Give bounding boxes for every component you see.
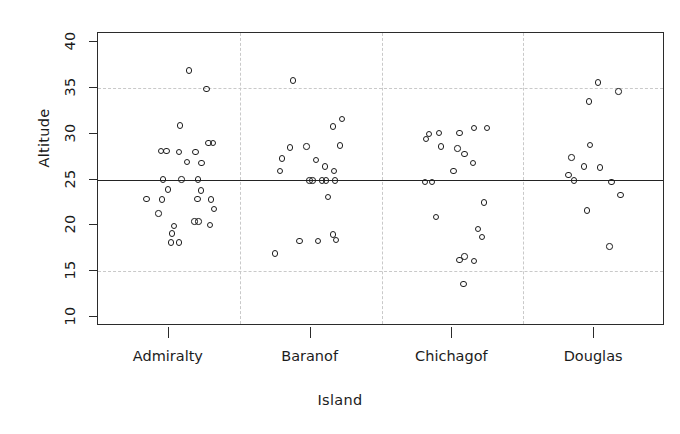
data-point [192, 149, 198, 155]
data-point [176, 239, 182, 245]
data-point [178, 176, 184, 182]
x-axis-title: Island [0, 392, 680, 408]
group-separator-3 [523, 33, 524, 324]
y-tick-label: 15 [62, 261, 78, 280]
y-tick-15 [89, 270, 97, 271]
data-point [325, 194, 331, 200]
y-tick-40 [89, 41, 97, 42]
y-tick-label-wrap-30: 30 [56, 117, 84, 149]
data-point [568, 154, 574, 160]
data-point [436, 130, 442, 136]
data-point [460, 281, 466, 287]
data-point [168, 239, 174, 245]
data-point [323, 177, 329, 183]
data-point [272, 250, 278, 256]
data-point [484, 125, 490, 131]
data-point [595, 79, 601, 85]
data-point [159, 196, 165, 202]
group-separator-2 [382, 33, 383, 324]
x-tick-label-admiralty: Admiralty [98, 348, 238, 364]
data-point [337, 142, 343, 148]
y-tick-label: 40 [62, 32, 78, 51]
group-separator-1 [240, 33, 241, 324]
data-point [277, 168, 283, 174]
data-point [471, 258, 477, 264]
scatter-chart: 10152025303540 AdmiraltyBaranofChichagof… [0, 0, 680, 434]
data-point [339, 116, 345, 122]
x-tick-label-baranof: Baranof [240, 348, 380, 364]
y-tick-label-wrap-10: 10 [56, 300, 84, 332]
data-point [461, 253, 467, 259]
data-point [143, 196, 149, 202]
gridline-dashed-35 [98, 88, 663, 89]
data-point [456, 130, 462, 136]
data-point [194, 196, 200, 202]
data-point [309, 177, 315, 183]
data-point [198, 160, 204, 166]
data-point [333, 237, 339, 243]
data-point [332, 177, 338, 183]
data-point [195, 176, 201, 182]
data-point [470, 160, 476, 166]
x-tick-chichagof [451, 327, 452, 338]
x-tick-label-douglas: Douglas [523, 348, 663, 364]
x-tick-baranof [310, 327, 311, 338]
data-point [163, 148, 169, 154]
y-tick-10 [89, 316, 97, 317]
data-point [597, 164, 603, 170]
data-point [176, 149, 182, 155]
data-point [584, 207, 590, 213]
data-point [331, 168, 337, 174]
data-point [207, 222, 213, 228]
data-point [475, 226, 481, 232]
data-point [211, 206, 217, 212]
data-point [198, 187, 204, 193]
data-point [587, 142, 593, 148]
data-point [165, 186, 171, 192]
data-point [330, 123, 336, 129]
y-tick-25 [89, 179, 97, 180]
data-point [279, 155, 285, 161]
data-point [169, 230, 175, 236]
data-point [208, 196, 214, 202]
data-point [290, 77, 296, 83]
x-tick-admiralty [168, 327, 169, 338]
y-tick-label-wrap-35: 35 [56, 71, 84, 103]
data-point [617, 192, 623, 198]
y-tick-label: 10 [62, 306, 78, 325]
data-point [315, 238, 321, 244]
data-point [155, 210, 161, 216]
data-point [461, 151, 467, 157]
data-point [160, 176, 166, 182]
data-point [608, 179, 614, 185]
gridline-dashed-15 [98, 271, 663, 272]
y-tick-30 [89, 133, 97, 134]
data-point [186, 67, 192, 73]
data-point [203, 86, 209, 92]
data-point [586, 98, 592, 104]
data-point [450, 168, 456, 174]
y-tick-label-wrap-40: 40 [56, 25, 84, 57]
data-point [322, 163, 328, 169]
x-tick-label-chichagof: Chichagof [381, 348, 521, 364]
data-point [454, 145, 460, 151]
data-point [303, 143, 309, 149]
data-point [210, 140, 216, 146]
data-point [177, 122, 183, 128]
y-tick-label: 25 [62, 169, 78, 188]
y-tick-label: 20 [62, 215, 78, 234]
y-axis-title: Altitude [14, 128, 48, 248]
y-tick-label-wrap-15: 15 [56, 254, 84, 286]
data-point [433, 214, 439, 220]
data-point [313, 157, 319, 163]
data-point [606, 243, 612, 249]
y-tick-label-wrap-25: 25 [56, 163, 84, 195]
data-point [481, 199, 487, 205]
data-point [171, 223, 177, 229]
data-point [471, 125, 477, 131]
y-tick-label: 35 [62, 77, 78, 96]
data-point [423, 136, 429, 142]
data-point [429, 179, 435, 185]
y-tick-35 [89, 87, 97, 88]
y-tick-label-wrap-20: 20 [56, 208, 84, 240]
